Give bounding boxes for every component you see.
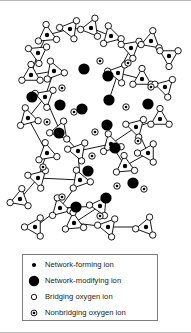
network-forming-ion [89,26,93,30]
bridging-oxygen-ion [38,185,44,191]
network-forming-ion [36,176,40,180]
network-modifying-ion [101,119,112,130]
nonbridging-oxygen-core [125,106,128,109]
bridging-oxygen-ion [25,45,31,51]
nonbridging-oxygen-ion [148,84,154,90]
network-forming-ion [109,34,113,38]
legend-label-nonbridging-oxygen-ion: Nonbridging oxygen ion [45,308,126,318]
nonbridging-oxygen-ion [97,213,103,219]
bridging-oxygen-ion [166,63,172,69]
network-forming-ion [43,95,47,99]
bridging-oxygen-ion [150,159,156,165]
network-forming-ion [134,125,138,129]
network-forming-ion [149,39,153,43]
network-forming-ion [52,69,56,73]
bridging-oxygen-ion [7,199,13,205]
bridging-oxygen-ion [112,216,118,222]
nonbridging-oxygen-ion [97,58,103,64]
nonbridging-oxygen-core [91,155,94,158]
network-forming-ion [36,51,40,55]
network-forming-ion [129,46,133,50]
bridging-oxygen-ion [113,169,119,175]
bridging-oxygen-ion [130,81,136,87]
nonbridging-oxygen-core [99,60,102,63]
nonbridging-oxygen-ion [114,183,120,189]
network-forming-ion [158,117,162,121]
bridging-oxygen-ion [108,234,114,240]
bridging-oxygen-ion [25,203,31,209]
bridging-oxygen-ion [157,105,163,111]
network-forming-ion [123,164,127,168]
network-modifying-ion [109,142,120,153]
bridging-oxygen-ion [140,116,146,122]
nonbridging-oxygen-core [73,111,76,114]
nonbridging-oxygen-ion [71,109,77,115]
nonbridging-oxygen-core [116,185,119,188]
network-modifying-ion [78,63,89,74]
bridging-oxygen-ion [157,48,163,54]
bridging-oxygen-ion [62,226,68,232]
bridging-oxygen-ion [80,224,86,230]
bridging-oxygen-ion [105,23,111,29]
nonbridging-oxygen-ion [125,60,131,66]
network-modifying-ion [127,177,138,188]
bridging-oxygen-ion [166,121,172,127]
network-forming-ion [116,71,120,75]
nonbridging-oxygen-core [61,87,64,90]
nonbridging-oxygen-ion [44,119,50,125]
legend-label-network-modifying-ion: Network-modifying ion [45,276,121,286]
legend-item-network-modifying-ion: Network-modifying ion [23,273,157,289]
bridging-oxygen-ion [37,77,43,83]
bridging-oxygen-ion [44,104,50,110]
bridging-oxygen-ion [35,118,41,124]
network-forming-ion [140,77,144,81]
bridging-oxygen-ion [61,70,67,76]
network-modifying-ion [54,99,65,110]
bridging-oxygen-ion [17,122,23,128]
network-forming-ion [26,116,30,120]
legend-label-bridging-oxygen-ion: Bridging oxygen ion [45,292,113,302]
bridging-oxygen-ion [73,18,79,24]
network-forming-ion [163,85,167,89]
bridging-oxygen-ion [139,65,145,71]
bridging-oxygen-ion [25,172,31,178]
network-forming-ion [68,27,72,31]
bond-layer [20,28,169,227]
bridging-oxygen-ion [73,167,79,173]
legend-label-network-forming-ion: Network-forming ion [45,260,114,270]
bridging-oxygen-ion [21,224,27,230]
nonbridging-oxygen-core [46,121,49,124]
bridging-oxygen-ion [118,80,124,86]
bridging-oxygen-ion [37,215,43,221]
legend-item-nonbridging-oxygen-ion: Nonbridging oxygen ion [23,305,157,321]
nonbridging-oxygen-core [42,166,45,169]
bridging-oxygen-ion [175,48,181,54]
nonbridging-oxygen-core [99,215,102,218]
nonbridging-oxygen-core [143,188,146,191]
nonbridging-oxygen-core [150,86,153,89]
bridging-oxygen-ion [56,24,62,30]
bridging-oxygen-ion [70,185,76,191]
bridging-oxygen-ion [36,60,42,66]
network-modifying-ion-symbol [23,273,45,289]
nonbridging-oxygen-ion [59,85,65,91]
nonbridging-oxygen-ion [89,153,95,159]
bridging-oxygen-ion [86,202,92,208]
bridging-oxygen-ion [150,27,156,33]
bridging-oxygen-ion [121,152,127,158]
nonbridging-oxygen-ion [40,164,46,170]
bridging-oxygen-ion [22,105,28,111]
nonbridging-oxygen-ion [123,104,129,110]
nonbridging-oxygen-core [137,140,140,143]
bridging-oxygen-ion [43,21,49,27]
network-forming-ion [58,206,62,210]
network-modifying-ion [82,165,93,176]
network-forming-ion [45,151,49,155]
bridging-oxygen-ion [87,179,93,185]
bridging-oxygen-ion [131,167,137,173]
nonbridging-oxygen-core [127,62,130,65]
bridging-oxygen-ion [49,212,55,218]
network-forming-ion [106,225,110,229]
network-modifying-ion [103,94,114,105]
bridging-oxygen-ion [132,226,138,232]
